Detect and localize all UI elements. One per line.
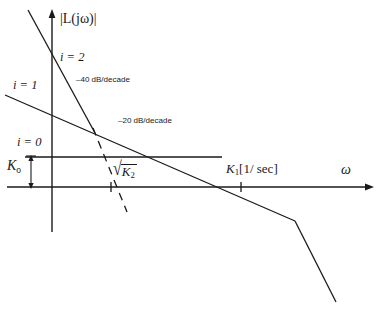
k1-variable: K [226,161,235,176]
ko-subscript: o [16,165,21,175]
asymptote-curves [5,10,336,302]
ko-variable: K [7,158,16,173]
annotation-slope-minus-40-db-decade: –40 dB/decade [76,76,130,84]
y-axis-label: |L(jω)| [60,12,97,26]
axes-group [7,9,374,232]
plot-canvas [0,0,379,314]
annotation-slope-minus-20-db-decade: –20 dB/decade [118,117,172,125]
bode-magnitude-figure: |L(jω)| i = 2 i = 1 i = 0 –40 dB/decade … [0,0,379,314]
curve-i1-slope20 [5,95,295,221]
annotation-i-equals-0: i = 0 [17,136,41,149]
annotation-k-sub-1-units: K1[1/ sec] [226,162,278,177]
curve-high-frequency-rolloff [295,221,336,302]
annotation-i-equals-2: i = 2 [60,51,84,64]
curve-i2-solid [28,10,95,133]
k1-units: [1/ sec] [239,161,278,176]
radical-sign: √ [113,159,122,179]
x-axis-arrowhead [365,183,374,190]
annotation-sqrt-k-sub-2: √K2 [112,163,137,180]
y-axis-arrowhead [49,9,56,18]
x-axis-label-omega: ω [341,163,351,177]
ko-measure-arrowhead-bottom [28,183,33,189]
ko-measure-arrow [26,155,36,189]
sqrt-k2-subscript: 2 [130,170,134,180]
annotation-k-sub-o: Ko [7,159,21,175]
annotation-i-equals-1: i = 1 [13,79,37,92]
